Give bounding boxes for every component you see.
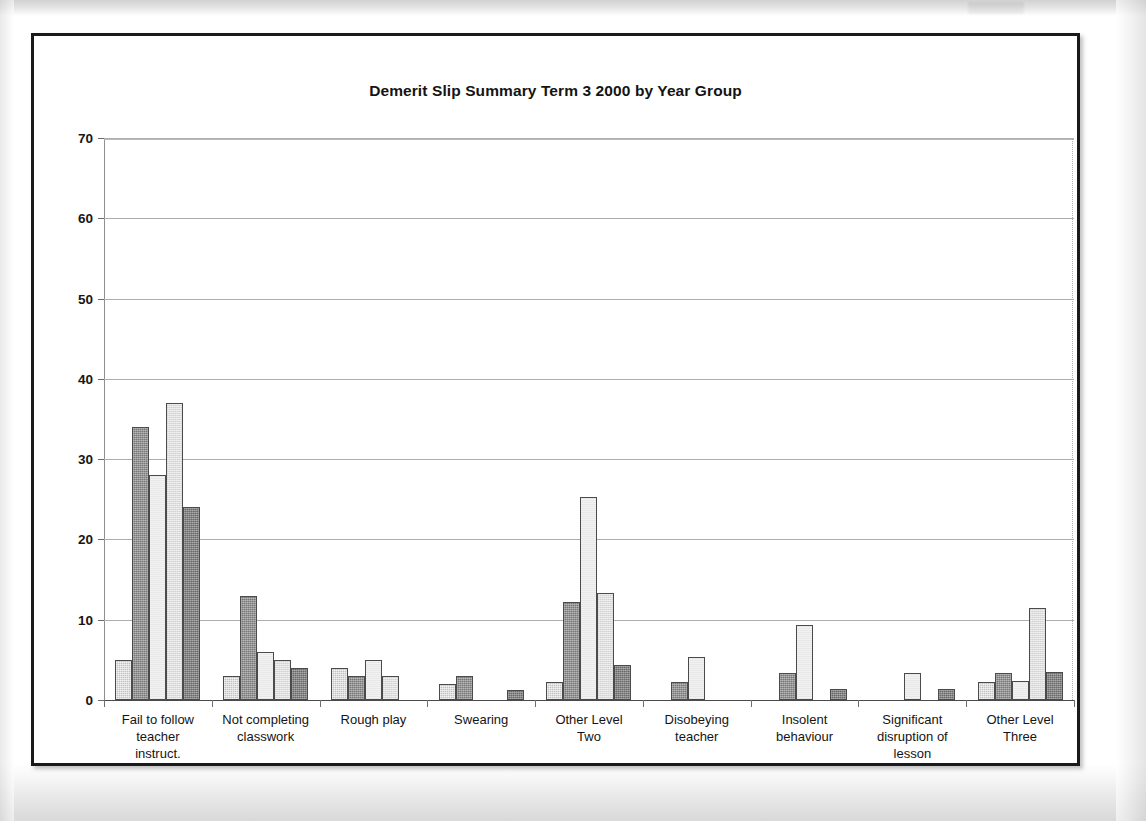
x-axis-category-label-line: Disobeying [643,711,751,728]
bar [132,427,149,700]
x-axis-category-label: Rough play [320,711,428,728]
bar-group [320,138,428,700]
bar [240,596,257,700]
x-axis-tick-mark [751,700,752,707]
bar [779,673,796,700]
x-axis-tick-mark [858,700,859,707]
plot-area: 010203040506070 [104,138,1074,700]
x-axis-labels: Fail to followteacherinstruct.Not comple… [104,700,1074,770]
bar [365,660,382,700]
bar [580,497,597,700]
bar [978,682,995,700]
x-axis-category-label-line: Not completing [212,711,320,728]
x-axis-category-label: Significantdisruption oflesson [858,711,966,762]
x-axis-category-label: Other LevelTwo [535,711,643,745]
x-axis-tick-mark [1074,700,1075,707]
y-axis-tick-label: 30 [78,452,93,467]
x-axis-category-label-line: Two [535,728,643,745]
x-axis-category-label: Other LevelThree [966,711,1074,745]
x-axis-tick-mark [535,700,536,707]
bar [614,665,631,700]
x-axis-category-label-line: Swearing [427,711,535,728]
x-axis-tick-mark [212,700,213,707]
bar [183,507,200,700]
bar [274,660,291,700]
x-axis-category-label: Swearing [427,711,535,728]
scanned-page: Demerit Slip Summary Term 3 2000 by Year… [0,0,1146,821]
bar [348,676,365,700]
x-axis-category-label: Fail to followteacherinstruct. [104,711,212,762]
chart-title: Demerit Slip Summary Term 3 2000 by Year… [34,82,1077,100]
x-axis-category-label: Disobeyingteacher [643,711,751,745]
y-axis-tick-label: 60 [78,211,93,226]
bar [382,676,399,700]
bar [1012,681,1029,700]
bar [938,689,955,700]
x-axis-category-label-line: teacher [643,728,751,745]
y-axis-tick-label: 0 [85,693,93,708]
x-axis-category-label-line: instruct. [104,745,212,762]
bar-group [212,138,320,700]
scan-smudge-mark [968,2,1024,14]
bar [439,684,456,700]
bar-group [104,138,212,700]
bar [257,652,274,700]
y-axis-tick-label: 70 [78,131,93,146]
x-axis-category-label-line: Rough play [320,711,428,728]
bar [115,660,132,700]
bar [507,690,524,700]
bar [166,403,183,700]
x-axis-category-label-line: behaviour [751,728,859,745]
x-axis-category-label-line: Insolent [751,711,859,728]
bar [223,676,240,700]
y-axis-tick-label: 10 [78,612,93,627]
x-axis-tick-mark [104,700,105,707]
bar [149,475,166,700]
x-axis-tick-mark [643,700,644,707]
x-axis-category-label-line: Other Level [966,711,1074,728]
bar [1029,608,1046,700]
scan-edge-right [1116,0,1146,821]
x-axis-category-label-line: Other Level [535,711,643,728]
x-axis-category-label: Insolentbehaviour [751,711,859,745]
chart-frame: Demerit Slip Summary Term 3 2000 by Year… [31,33,1080,766]
x-axis-category-label-line: disruption of [858,728,966,745]
bar-group [751,138,859,700]
bar-group [427,138,535,700]
y-axis-tick-label: 40 [78,371,93,386]
bar [904,673,921,700]
x-axis-category-label-line: teacher [104,728,212,745]
x-axis-tick-mark [427,700,428,707]
scan-edge-bottom [0,763,1146,821]
scan-edge-left [0,0,14,821]
x-axis-category-label-line: lesson [858,745,966,762]
bar [688,657,705,700]
x-axis-tick-mark [320,700,321,707]
bar [291,668,308,700]
bar-group [966,138,1074,700]
bar [1046,672,1063,700]
x-axis-category-label: Not completingclasswork [212,711,320,745]
bar [796,625,813,700]
x-axis-category-label-line: Fail to follow [104,711,212,728]
y-axis-tick-label: 20 [78,532,93,547]
y-axis-tick-label: 50 [78,291,93,306]
bar [331,668,348,700]
x-axis-tick-mark [966,700,967,707]
bar [995,673,1012,700]
bar-group [858,138,966,700]
x-axis-category-label-line: Significant [858,711,966,728]
bar-group [643,138,751,700]
bar [830,689,847,700]
bar-group [535,138,643,700]
bar [456,676,473,700]
bar [563,602,580,700]
bar [597,593,614,700]
x-axis-category-label-line: Three [966,728,1074,745]
bar [671,682,688,700]
x-axis-category-label-line: classwork [212,728,320,745]
bar [546,682,563,700]
